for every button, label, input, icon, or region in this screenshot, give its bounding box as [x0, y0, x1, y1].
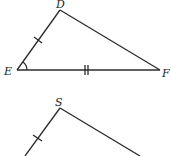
triangle-s: S: [25, 96, 140, 156]
vertex-label-e: E: [3, 65, 12, 78]
geometry-diagram: D E F S: [0, 0, 171, 156]
side-df: [60, 10, 160, 70]
triangle-def: D E F: [3, 0, 170, 80]
side-s-left: [25, 108, 60, 156]
vertex-label-s: S: [55, 96, 63, 109]
angle-arc-e: [23, 62, 27, 70]
side-s-right: [60, 108, 140, 156]
vertex-label-d: D: [55, 0, 65, 11]
vertex-label-f: F: [161, 67, 170, 80]
tick-mark-s-left: [33, 135, 42, 141]
